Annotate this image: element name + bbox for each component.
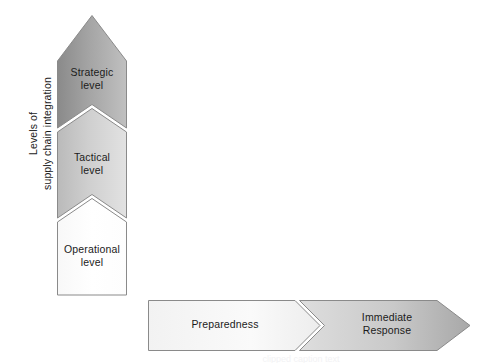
horizontal-stage-immediate-response-label-line-2: Response (332, 324, 442, 337)
horizontal-stage-preparedness-label-line-1: Preparedness (170, 318, 280, 331)
vertical-stage-operational-label-line-1: Operational (46, 243, 138, 256)
figure-canvas: Levels of supply chain integration (0, 0, 477, 363)
horizontal-stage-preparedness-label: Preparedness (170, 318, 280, 331)
vertical-stage-tactical-label: Tactical level (50, 151, 134, 177)
vertical-stage-tactical-label-line-1: Tactical (50, 151, 134, 164)
vertical-stage-strategic-label-line-1: Strategic (50, 66, 134, 79)
vertical-stage-strategic-label-line-2: level (50, 79, 134, 92)
vertical-stage-operational-label-line-2: level (46, 256, 138, 269)
vertical-stage-operational-label: Operational level (46, 243, 138, 269)
horizontal-stage-immediate-response-label-line-1: Immediate (332, 311, 442, 324)
diagram-shapes (0, 0, 477, 363)
vertical-stage-strategic-label: Strategic level (50, 66, 134, 92)
vertical-stage-tactical-label-line-2: level (50, 164, 134, 177)
caption-remnant: clipped caption text (176, 354, 426, 363)
horizontal-stage-immediate-response-label: Immediate Response (332, 311, 442, 337)
